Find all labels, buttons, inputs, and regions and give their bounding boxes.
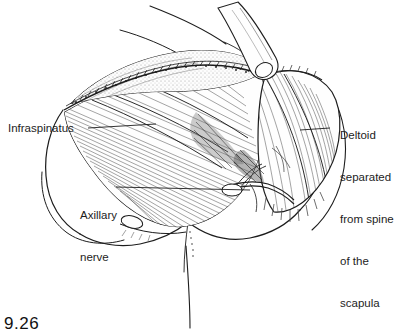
label-axillary-nerve-line2: nerve: [80, 250, 117, 264]
label-deltoid-line1: Deltoid: [340, 128, 394, 142]
label-infraspinatus: Infraspinatus: [8, 121, 74, 135]
label-deltoid-line2: separated: [340, 170, 394, 184]
figure-number: 9.26: [4, 314, 39, 331]
label-axillary-nerve: Axillary nerve: [80, 180, 117, 278]
label-deltoid-line4: of the: [340, 254, 394, 268]
label-deltoid-line5: scapula: [340, 296, 394, 310]
label-deltoid-line3: from spine: [340, 212, 394, 226]
label-deltoid-separated: Deltoid separated from spine of the scap…: [340, 100, 394, 324]
label-axillary-nerve-line1: Axillary: [80, 208, 117, 222]
